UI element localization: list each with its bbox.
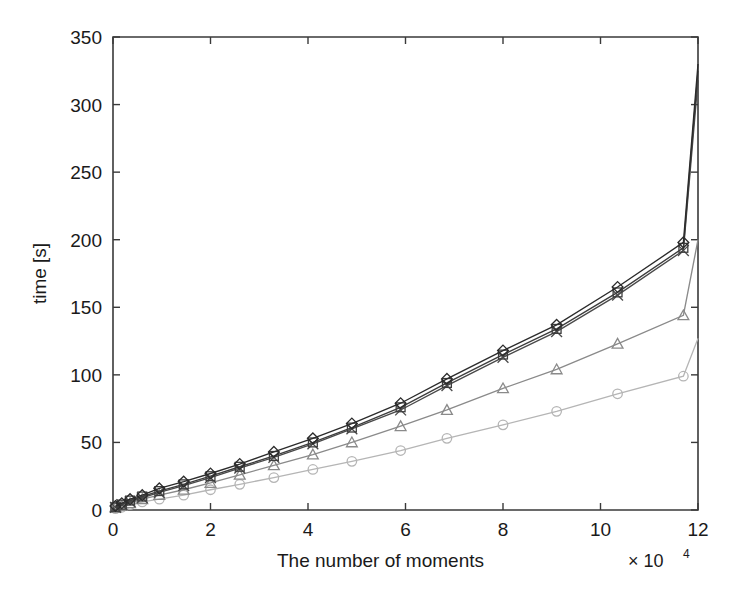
chart-figure: 024681012050100150200250300350The number… [0, 0, 744, 595]
x-tick-label: 12 [687, 519, 708, 540]
y-tick-label: 150 [70, 297, 102, 318]
axis-box [113, 37, 698, 510]
x-tick-label: 6 [400, 519, 411, 540]
x-tick-label: 4 [303, 519, 314, 540]
x-tick-label: 0 [108, 519, 119, 540]
x-axis-multiplier: × 10 [628, 551, 664, 571]
y-tick-label: 100 [70, 365, 102, 386]
series-path-series-diamond [115, 64, 698, 506]
x-axis-label: The number of moments [277, 550, 484, 571]
y-axis-label: time [s] [29, 243, 50, 304]
series-group-series-circle [111, 338, 698, 513]
series-path-series-triangle [115, 240, 698, 508]
series-group-series-triangle [110, 240, 698, 512]
series-path-series-square [115, 71, 698, 508]
y-tick-label: 200 [70, 230, 102, 251]
series-group-series-diamond [110, 64, 698, 511]
x-tick-label: 10 [590, 519, 611, 540]
y-tick-label: 50 [81, 432, 102, 453]
y-tick-label: 0 [91, 500, 102, 521]
x-axis-multiplier-exponent: 4 [683, 547, 690, 561]
x-tick-label: 2 [205, 519, 216, 540]
y-tick-label: 250 [70, 162, 102, 183]
x-tick-label: 8 [498, 519, 509, 540]
y-tick-label: 300 [70, 95, 102, 116]
y-tick-label: 350 [70, 27, 102, 48]
series-path-series-cross [115, 80, 698, 507]
